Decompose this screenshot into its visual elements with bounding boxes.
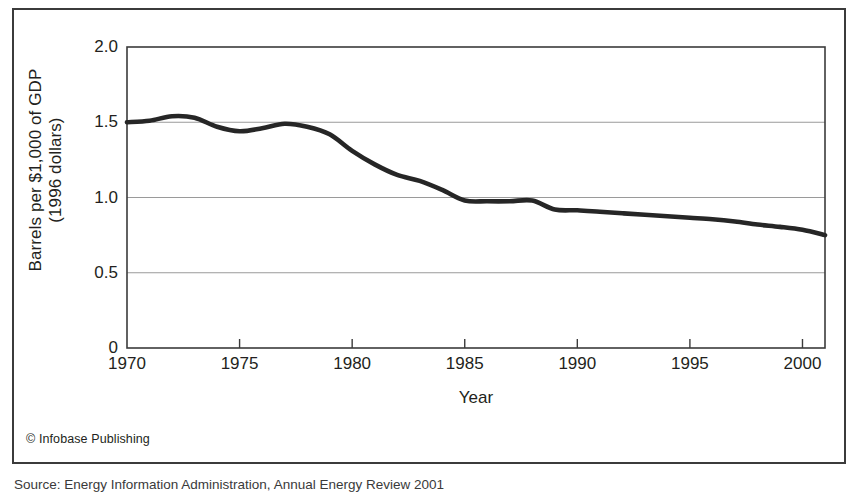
y-tick-label-2.0: 2.0	[94, 37, 118, 57]
x-axis-title: Year	[127, 388, 825, 408]
x-tick-label-1990: 1990	[558, 354, 596, 374]
series-line-energy-intensity	[127, 116, 825, 235]
y-axis-title: Barrels per $1,000 of GDP (1996 dollars)	[26, 20, 66, 320]
data-line-series	[127, 116, 825, 235]
x-tick-label-1975: 1975	[221, 354, 259, 374]
x-tick-label-1970: 1970	[108, 354, 146, 374]
x-tick-label-1985: 1985	[446, 354, 484, 374]
publisher-credit: © Infobase Publishing	[26, 432, 150, 446]
x-tick-label-2000: 2000	[784, 354, 822, 374]
y-tick-label-0.5: 0.5	[94, 263, 118, 283]
x-tick-label-1995: 1995	[671, 354, 709, 374]
x-tick-label-1980: 1980	[333, 354, 371, 374]
y-axis-title-line2: (1996 dollars)	[46, 20, 66, 320]
y-axis-title-line1: Barrels per $1,000 of GDP	[26, 69, 45, 272]
gridlines	[127, 122, 825, 273]
y-tick-label-1.5: 1.5	[94, 112, 118, 132]
x-axis-ticks	[240, 339, 803, 348]
y-tick-label-1.0: 1.0	[94, 188, 118, 208]
source-caption: Source: Energy Information Administratio…	[14, 477, 444, 492]
